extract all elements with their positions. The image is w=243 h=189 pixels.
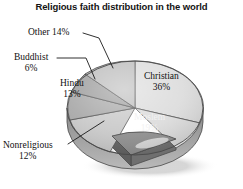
slice-label-other-text: Other 14% <box>28 27 69 38</box>
slice-label-christian: Christian 36% <box>144 71 179 92</box>
slice-label-hindu-name: Hindu <box>60 78 84 89</box>
slice-label-nonreligious: Nonreligious 12% <box>3 140 53 161</box>
leader-line-other <box>83 33 113 68</box>
pie-chart-figure: Religious faith distribution in the worl… <box>0 0 243 189</box>
slice-label-buddhist-value: 6% <box>14 63 48 74</box>
pie-chart-graphic: Other 14% Buddhist 6% Hindu 13% Nonrelig… <box>0 0 243 189</box>
slice-label-nonreligious-name: Nonreligious <box>3 140 53 151</box>
slice-label-christian-value: 36% <box>144 82 179 93</box>
slice-label-hindu: Hindu 13% <box>60 78 84 99</box>
slice-label-buddhist: Buddhist 6% <box>14 52 48 73</box>
slice-label-nonreligious-value: 12% <box>3 151 53 162</box>
slice-label-christian-name: Christian <box>144 71 179 82</box>
pie-gloss <box>67 61 203 155</box>
slice-label-other: Other 14% <box>28 27 69 38</box>
slice-label-moslem-name: Moslem <box>134 112 165 123</box>
slice-label-moslem-value: 19% <box>134 123 165 134</box>
slice-label-moslem: Moslem 19% <box>134 112 165 133</box>
slice-label-hindu-value: 13% <box>60 89 84 100</box>
slice-label-buddhist-name: Buddhist <box>14 52 48 63</box>
